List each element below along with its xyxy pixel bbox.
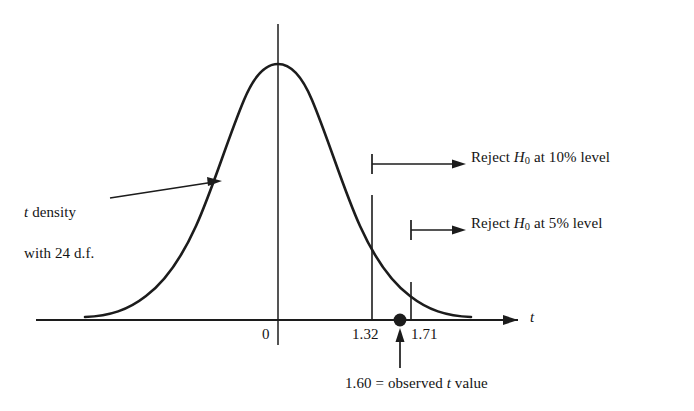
tick-label-1-71: 1.71 [411,325,438,343]
reject-5-h-symbol: H [514,215,525,231]
observed-caption-equals: = observed [372,375,447,391]
figure-canvas [0,0,694,411]
reject-5-prefix: Reject [471,215,514,231]
reject-5-suffix: at 5% level [530,215,602,231]
reject-10-suffix: at 10% level [530,149,610,165]
density-label: t density with 24 d.f. [24,182,94,263]
observed-value-dot [394,314,407,327]
leader-line-icon [110,182,214,198]
density-label-line1-rest: density [28,204,76,220]
observed-caption-tail: value [451,375,488,391]
observed-value-number: 1.60 [345,375,372,391]
arrow-right-icon [503,315,518,325]
tick-label-1-32: 1.32 [352,325,379,343]
reject-10-h-symbol: H [514,149,525,165]
tick-label-zero: 0 [262,325,270,343]
x-axis-label: t [530,308,534,326]
observed-value-caption: 1.60 = observed t value [345,374,488,392]
arrow-right-icon [452,160,466,169]
t-distribution-figure: t density with 24 d.f. Reject H0 at 10% … [0,0,694,411]
reject-5-percent-label: Reject H0 at 5% level [471,214,602,234]
reject-10-prefix: Reject [471,149,514,165]
density-label-line2: with 24 d.f. [24,245,94,261]
arrow-up-icon [396,328,405,342]
arrow-right-icon [452,226,466,235]
reject-10-percent-label: Reject H0 at 10% level [471,148,610,168]
